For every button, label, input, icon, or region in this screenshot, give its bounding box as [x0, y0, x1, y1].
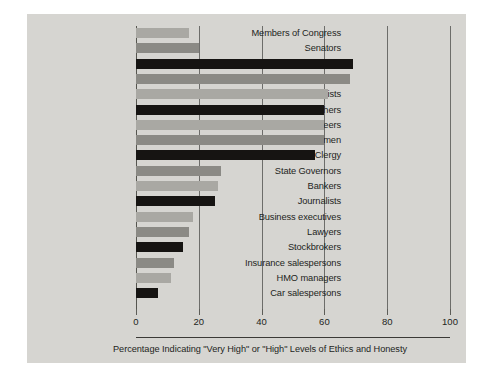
category-label: Lawyers: [307, 227, 341, 237]
x-tick-label-0: 0: [133, 316, 138, 327]
x-tick-20: [199, 309, 200, 315]
bar: [136, 242, 183, 252]
bar-row: Journalists: [136, 194, 450, 209]
bar: [136, 258, 174, 268]
category-label: Insurance salespersons: [245, 258, 341, 268]
bar: [136, 74, 350, 84]
category-label: State Governors: [275, 166, 341, 176]
bar-row: Car salespersons: [136, 286, 450, 301]
x-tick-100: [450, 309, 451, 315]
bar: [136, 105, 324, 115]
bar-row: College teachers: [136, 103, 450, 118]
bar-row: Insurance salespersons: [136, 256, 450, 271]
x-tick-80: [387, 309, 388, 315]
gridline-100: [450, 26, 451, 309]
bar-row: Engineers: [136, 118, 450, 133]
plot-area: Members of CongressSenatorsMedical docto…: [136, 26, 450, 309]
category-label: Clergy: [315, 150, 341, 160]
x-tick-label-80: 80: [382, 316, 393, 327]
x-axis-caption: Percentage Indicating "Very High" or "Hi…: [67, 344, 453, 354]
category-label: HMO managers: [277, 273, 341, 283]
bar-row: Members of Congress: [136, 26, 450, 41]
bar: [136, 196, 215, 206]
bar: [136, 59, 353, 69]
x-tick-label-60: 60: [319, 316, 330, 327]
bar-row: Pharmacists: [136, 72, 450, 87]
x-tick-60: [324, 309, 325, 315]
bar: [136, 150, 315, 160]
bar: [136, 227, 189, 237]
bar-row: Clergy: [136, 148, 450, 163]
bar-row: Business executives: [136, 210, 450, 225]
bar-row: Medical doctors: [136, 57, 450, 72]
category-label: Members of Congress: [251, 28, 341, 38]
bar: [136, 166, 221, 176]
bar-row: Policemen: [136, 133, 450, 148]
category-label: Journalists: [298, 196, 341, 206]
bar-row: State Governors: [136, 164, 450, 179]
category-label: Senators: [305, 43, 341, 53]
bar: [136, 43, 199, 53]
bar-row: Stockbrokers: [136, 240, 450, 255]
bar: [136, 89, 328, 99]
bar-row: Dentists: [136, 87, 450, 102]
bar: [136, 181, 218, 191]
category-label: Car salespersons: [270, 288, 341, 298]
bar-row: Bankers: [136, 179, 450, 194]
bar-rows: Members of CongressSenatorsMedical docto…: [136, 26, 450, 309]
bar: [136, 288, 158, 298]
x-tick-label-20: 20: [194, 316, 205, 327]
bar-row: Lawyers: [136, 225, 450, 240]
x-tick-0: [136, 309, 137, 315]
bar: [136, 28, 189, 38]
bar: [136, 273, 171, 283]
chart-panel: Members of CongressSenatorsMedical docto…: [27, 14, 466, 363]
bar: [136, 135, 324, 145]
chart-page: Members of CongressSenatorsMedical docto…: [0, 0, 489, 382]
x-tick-40: [262, 309, 263, 315]
caption-separator-rule: [136, 337, 450, 338]
category-label: Stockbrokers: [288, 242, 341, 252]
category-label: Business executives: [259, 212, 341, 222]
x-tick-label-40: 40: [256, 316, 267, 327]
bar-row: Senators: [136, 41, 450, 56]
x-axis: 020406080100: [136, 309, 450, 333]
bar: [136, 120, 324, 130]
bar: [136, 212, 193, 222]
x-tick-label-100: 100: [442, 316, 458, 327]
category-label: Bankers: [308, 181, 341, 191]
bar-row: HMO managers: [136, 271, 450, 286]
